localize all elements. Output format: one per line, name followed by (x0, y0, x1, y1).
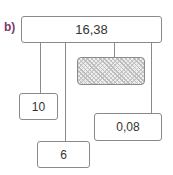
hidden-value-box[interactable] (77, 57, 145, 85)
part-label: b) (4, 20, 15, 34)
connector-line-10 (40, 43, 41, 93)
connector-line-008 (151, 43, 152, 113)
addend-box-10: 10 (19, 93, 58, 120)
connector-line-hidden (114, 43, 115, 57)
total-box: 16,38 (21, 16, 162, 43)
connector-line-6 (65, 43, 66, 141)
addend-box-008: 0,08 (94, 113, 162, 141)
addend-box-6: 6 (37, 141, 90, 168)
